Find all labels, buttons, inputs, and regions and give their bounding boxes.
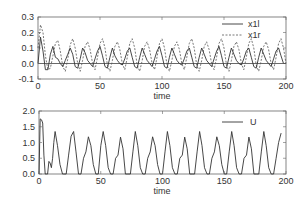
series-U [39,119,281,174]
y-tick-label: 0.2 [21,28,34,38]
top-legend: x1l x1r [222,19,261,40]
y-tick-label: 0.0 [22,169,35,179]
x-tick-label: 150 [217,176,232,186]
x-tick-label: 150 [216,81,231,91]
legend-label-U: U [250,117,257,127]
top-x-axis-label: time [153,91,170,101]
y-tick-label: 2.0 [22,106,35,116]
bottom-plot-frame [39,111,286,174]
figure: -0.10.00.10.20.3 050100150200 time x1l x… [0,0,306,204]
y-tick-label: 0.3 [21,12,34,22]
top-subplot: -0.10.00.10.20.3 050100150200 time x1l x… [18,12,293,101]
x-tick-label: 50 [96,176,106,186]
x-tick-label: 0 [36,176,41,186]
x-tick-label: 100 [154,81,169,91]
bottom-subplot: 0.00.51.01.52.0 050100150200 time U [22,106,293,196]
y-tick-label: -0.1 [18,74,34,84]
bottom-x-axis-label: time [153,186,170,196]
x-tick-label: 50 [95,81,105,91]
y-tick-label: 0.5 [22,153,35,163]
legend-label-x1r: x1r [248,30,261,40]
y-tick-label: 0.1 [21,43,34,53]
y-tick-label: 0.0 [21,59,34,69]
top-y-axis: -0.10.00.10.20.3 [18,12,286,84]
series-x1l [38,37,286,70]
x-tick-label: 200 [278,176,293,186]
y-tick-label: 1.0 [22,138,35,148]
legend-label-x1l: x1l [248,19,260,29]
y-tick-label: 1.5 [22,122,35,132]
bottom-legend: U [222,117,257,127]
x-tick-label: 100 [155,176,170,186]
x-tick-label: 200 [278,81,293,91]
x-tick-label: 0 [35,81,40,91]
